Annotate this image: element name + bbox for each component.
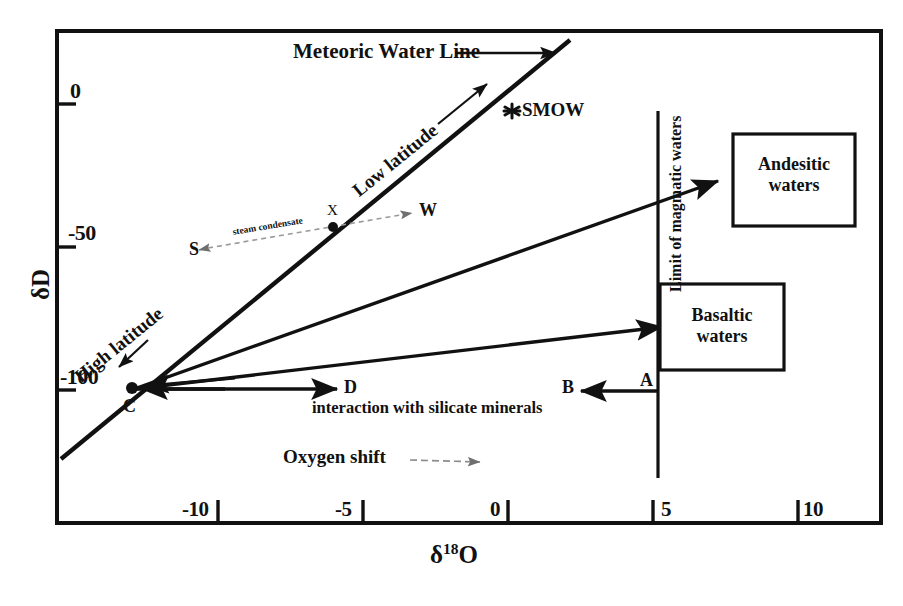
basaltic-waters-line2: waters bbox=[660, 326, 784, 347]
x-axis-ticks bbox=[218, 500, 798, 523]
x-tick-label-10: 10 bbox=[803, 498, 823, 520]
plot-frame bbox=[57, 31, 881, 523]
meteoric-water-line-label: Meteoric Water Line bbox=[293, 40, 480, 62]
interaction-label: interaction with silicate minerals bbox=[312, 399, 543, 416]
oxygen-shift-label: Oxygen shift bbox=[283, 447, 386, 467]
limit-magmatic-waters-label: Limit of magmatic waters bbox=[668, 116, 685, 292]
x-axis-title: δ18O bbox=[430, 541, 478, 569]
point-label-s: S bbox=[189, 240, 199, 259]
marker-point-c bbox=[126, 382, 138, 394]
x-axis-title-superscript: 18 bbox=[443, 540, 459, 557]
x-tick-label-5: 5 bbox=[661, 498, 671, 520]
smow-asterisk-icon bbox=[504, 104, 520, 118]
steam-condensate-line bbox=[199, 213, 412, 250]
basaltic-waters-label: Basaltic waters bbox=[660, 305, 784, 346]
y-tick-label-0: 0 bbox=[70, 79, 81, 102]
x-axis-title-element: O bbox=[458, 541, 477, 568]
low-latitude-arrow bbox=[438, 84, 487, 124]
isotope-diagram-svg bbox=[0, 0, 903, 606]
oxygen-shift-arrow bbox=[410, 460, 480, 462]
point-label-a: A bbox=[640, 371, 653, 390]
basaltic-waters-line1: Basaltic bbox=[660, 305, 784, 326]
point-label-w: W bbox=[419, 201, 437, 220]
y-axis-ticks bbox=[57, 104, 76, 390]
x-axis-title-delta: δ bbox=[430, 541, 443, 568]
marker-point-x bbox=[328, 222, 338, 232]
figure-canvas: 0 -50 -100 -10 -5 0 5 10 δD δ18O Meteori… bbox=[0, 0, 903, 606]
andesitic-waters-line2: waters bbox=[733, 175, 855, 196]
x-tick-label-0: 0 bbox=[490, 498, 500, 520]
point-label-c: C bbox=[123, 397, 136, 416]
y-axis-title: δD bbox=[28, 269, 54, 300]
point-label-x: X bbox=[327, 203, 338, 219]
x-tick-label-minus10: -10 bbox=[182, 498, 209, 520]
meteoric-water-line bbox=[61, 40, 570, 459]
point-label-d: D bbox=[344, 378, 357, 397]
x-tick-label-minus5: -5 bbox=[335, 498, 352, 520]
y-tick-label-minus50: -50 bbox=[68, 221, 96, 244]
andesitic-waters-label: Andesitic waters bbox=[733, 154, 855, 195]
smow-label: SMOW bbox=[522, 100, 584, 120]
point-label-b: B bbox=[562, 378, 574, 397]
andesitic-waters-line1: Andesitic bbox=[733, 154, 855, 175]
